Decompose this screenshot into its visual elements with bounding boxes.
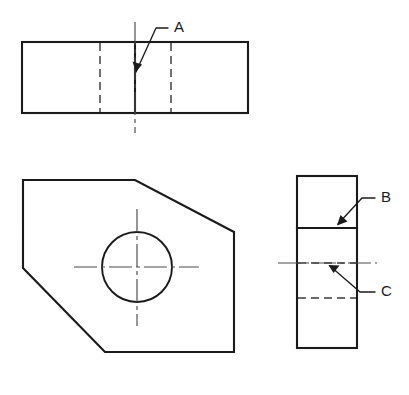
callout-b: B (337, 188, 391, 226)
side-view-outline (297, 176, 357, 348)
engineering-drawing-canvas: A B C (0, 0, 409, 395)
top-view (22, 22, 248, 133)
front-view (23, 180, 234, 352)
label-a: A (174, 18, 184, 35)
callout-a: A (133, 18, 185, 72)
label-b: B (381, 188, 391, 205)
front-view-outline (23, 180, 234, 352)
callout-c: C (329, 265, 393, 299)
right-side-view (278, 176, 377, 348)
arrow-head-c (329, 265, 340, 273)
arrow-head-b (337, 215, 348, 226)
orthographic-drawing-svg: A B C (0, 0, 409, 395)
label-c: C (381, 282, 392, 299)
leader-line-c (330, 266, 375, 292)
